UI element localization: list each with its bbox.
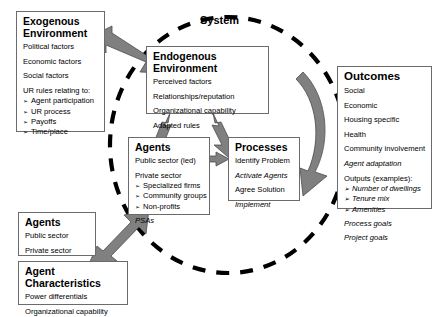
exogenous-bullet-agent-participation: Agent participation <box>23 96 99 106</box>
agents-center-line-private: Private sector <box>135 171 204 182</box>
agents-center-bullet-specialized-firms: Specialized firms <box>135 181 204 191</box>
outcomes-line-community-involvement: Community involvement <box>344 144 426 155</box>
outcomes-line-economic: Economic <box>344 101 426 112</box>
endogenous-line-org-capability: Organizational capability <box>153 106 263 117</box>
exogenous-bullet-time-place: Time/place <box>23 127 99 137</box>
system-label: System <box>200 14 239 26</box>
arrow-processes-outcomes <box>296 72 327 196</box>
box-agents-center: Agents Public sector (led) Private secto… <box>128 137 210 215</box>
box-processes: Processes Identify Problem Activate Agen… <box>228 137 300 201</box>
processes-line-agree-solution: Agree Solution <box>235 185 294 196</box>
endogenous-line-relationships: Relationships/reputation <box>153 92 263 103</box>
outcomes-bullet-amenities: Amenities <box>344 205 426 215</box>
endogenous-title: Endogenous Environment <box>153 50 263 74</box>
outcomes-title: Outcomes <box>344 70 426 83</box>
agents-center-bullet-non-profits: Non-profits <box>135 202 204 212</box>
endogenous-line-perceived: Perceived factors <box>153 77 263 88</box>
outcomes-line-project-goals: Project goals <box>344 233 426 244</box>
box-agent-characteristics: Agent Characteristics Power differential… <box>18 261 128 305</box>
box-agents-bottom: Agents Public sector Private sector <box>18 212 96 256</box>
agents-center-title: Agents <box>135 141 204 153</box>
outcomes-line-process-goals: Process goals <box>344 219 426 230</box>
outcomes-line-outputs: Outputs (examples): <box>344 174 426 185</box>
agent-characteristics-line-org-capability: Organizational capability <box>25 307 122 317</box>
agent-characteristics-line-power: Power differentials <box>25 292 122 303</box>
outcomes-line-health: Health <box>344 130 426 141</box>
processes-line-identify-problem: Identify Problem <box>235 156 294 167</box>
exogenous-line-ur-rules: UR rules relating to: <box>23 86 99 97</box>
agents-center-line-psas: PSAs <box>135 216 204 227</box>
outcomes-bullet-number-of-dwellings: Number of dwellings <box>344 184 426 194</box>
endogenous-line-adapted-rules: Adapted rules <box>153 121 263 132</box>
agent-characteristics-title: Agent Characteristics <box>25 265 122 289</box>
exogenous-bullet-ur-process: UR process <box>23 107 99 117</box>
exogenous-bullet-payoffs: Payoffs <box>23 117 99 127</box>
agents-bottom-line-public: Public sector <box>25 231 90 242</box>
agents-center-line-public: Public sector (led) <box>135 156 204 167</box>
exogenous-line-political: Political factors <box>23 42 99 53</box>
exogenous-title: Exogenous Environment <box>23 15 99 39</box>
processes-line-activate-agents: Activate Agents <box>235 171 294 182</box>
processes-line-implement: Implement <box>235 200 294 211</box>
agents-center-bullet-community-groups: Community groups <box>135 191 204 201</box>
box-exogenous-environment: Exogenous Environment Political factors … <box>16 11 105 132</box>
agents-bottom-title: Agents <box>25 216 90 228</box>
box-outcomes: Outcomes Social Economic Housing specifi… <box>337 66 432 209</box>
outcomes-line-housing-specific: Housing specific <box>344 115 426 126</box>
outcomes-line-social: Social <box>344 86 426 97</box>
exogenous-line-social: Social factors <box>23 71 99 82</box>
outcomes-line-agent-adaptation: Agent adaptation <box>344 159 426 170</box>
processes-title: Processes <box>235 141 294 153</box>
agents-bottom-line-private: Private sector <box>25 246 90 257</box>
outcomes-bullet-tenure-mix: Tenure mix <box>344 194 426 204</box>
box-endogenous-environment: Endogenous Environment Perceived factors… <box>146 46 269 114</box>
exogenous-line-economic: Economic factors <box>23 57 99 68</box>
